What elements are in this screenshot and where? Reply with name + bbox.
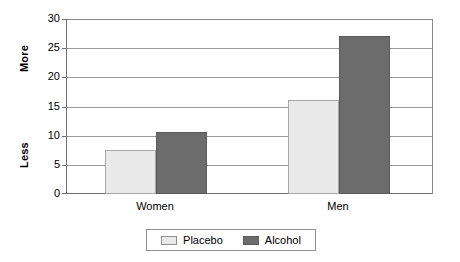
y-tick-mark-5 [62,165,67,166]
bar-women-alcohol [156,132,207,194]
chart-legend: Placebo Alcohol [146,229,316,251]
category-label-men: Men [298,200,378,212]
bar-women-placebo [105,150,156,194]
y-tick-mark-0 [62,193,67,194]
bar-chart-figure: 30 25 20 15 10 5 0 More Less Women [0,0,460,262]
y-tick-label-0: 0 [54,188,60,199]
plot-area [66,19,433,194]
y-tick-mark-10 [62,136,67,137]
y-axis-label-less: Less [18,142,30,168]
bar-men-placebo [288,100,339,194]
y-tick-label-25: 25 [48,42,60,53]
gridline-30 [67,19,432,20]
bar-men-alcohol [339,36,390,194]
legend-item-placebo: Placebo [161,235,223,246]
y-tick-mark-15 [62,107,67,108]
y-tick-label-5: 5 [54,159,60,170]
y-tick-label-30: 30 [48,13,60,24]
y-axis-label-more: More [18,45,30,72]
legend-swatch-placebo-icon [161,236,177,245]
y-tick-mark-20 [62,77,67,78]
y-axis-tick-labels: 30 25 20 15 10 5 0 [28,0,60,262]
y-tick-label-20: 20 [48,71,60,82]
legend-label-placebo: Placebo [183,235,223,246]
y-tick-mark-25 [62,48,67,49]
legend-swatch-alcohol-icon [243,236,259,245]
y-tick-label-15: 15 [48,101,60,112]
category-label-women: Women [115,200,195,212]
y-tick-mark-30 [62,19,67,20]
legend-label-alcohol: Alcohol [265,235,301,246]
y-tick-label-10: 10 [48,130,60,141]
legend-item-alcohol: Alcohol [243,235,301,246]
